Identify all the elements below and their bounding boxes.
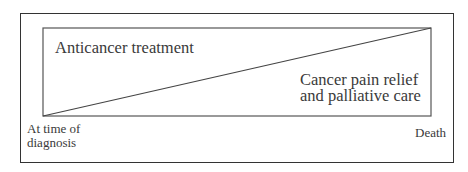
diagnosis-label-line-2: diagnosis	[27, 136, 80, 150]
palliative-care-label: Cancer pain relief and palliative care	[300, 72, 418, 104]
death-label: Death	[415, 126, 446, 139]
diagnosis-label: At time of diagnosis	[27, 122, 80, 150]
anticancer-treatment-label: Anticancer treatment	[55, 40, 194, 57]
diagnosis-label-line-1: At time of	[27, 122, 80, 136]
palliative-care-label-line-2: and palliative care	[300, 88, 418, 104]
